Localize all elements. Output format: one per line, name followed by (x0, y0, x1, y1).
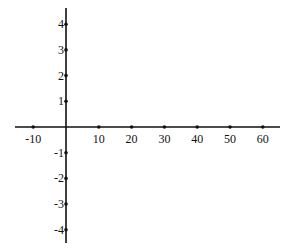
x-axis-ticks: -10102030405060 (25, 125, 269, 146)
y-tick-mark (64, 74, 68, 78)
y-tick-mark (64, 22, 68, 26)
y-tick-label: 3 (58, 43, 64, 57)
x-tick-mark (261, 125, 265, 129)
y-tick-mark (64, 177, 68, 181)
x-tick-mark (228, 125, 232, 129)
x-tick-mark (195, 125, 199, 129)
y-tick-mark (64, 100, 68, 104)
x-tick-label: 30 (158, 132, 170, 146)
y-tick-label: 2 (58, 69, 64, 83)
y-tick-mark (64, 228, 68, 232)
x-tick-label: 40 (191, 132, 203, 146)
y-tick-label: -2 (54, 171, 64, 185)
x-tick-mark (97, 125, 101, 129)
x-tick-mark (163, 125, 167, 129)
x-tick-label: 20 (126, 132, 138, 146)
y-tick-label: -3 (54, 197, 64, 211)
x-tick-label: 60 (257, 132, 269, 146)
y-tick-mark (64, 48, 68, 52)
coordinate-plane: -10102030405060 4321-1-2-3-4 (0, 0, 291, 252)
x-tick-label: 50 (224, 132, 236, 146)
x-tick-mark (31, 125, 35, 129)
x-tick-label: 10 (93, 132, 105, 146)
y-tick-label: 4 (58, 17, 64, 31)
y-tick-label: -4 (54, 223, 64, 237)
y-tick-label: 1 (58, 94, 64, 108)
y-tick-label: -1 (54, 146, 64, 160)
x-tick-label: -10 (25, 132, 41, 146)
y-tick-mark (64, 151, 68, 155)
x-tick-mark (130, 125, 134, 129)
y-tick-mark (64, 202, 68, 206)
